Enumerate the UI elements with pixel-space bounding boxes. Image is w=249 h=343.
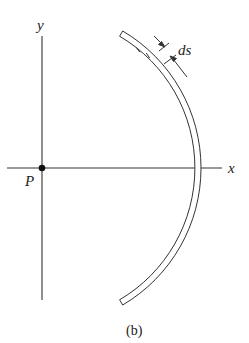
ds-label: ds (178, 42, 192, 58)
point-p-label: P (24, 173, 34, 189)
figure-caption: (b) (126, 323, 143, 339)
ds-arrow-upper (154, 36, 169, 51)
diagram-svg: y x P ds (b) (0, 0, 249, 343)
y-axis-label: y (35, 17, 44, 33)
point-p-dot (39, 165, 46, 172)
diagram-canvas: y x P ds (b) (0, 0, 249, 343)
x-axis-label: x (227, 160, 235, 176)
